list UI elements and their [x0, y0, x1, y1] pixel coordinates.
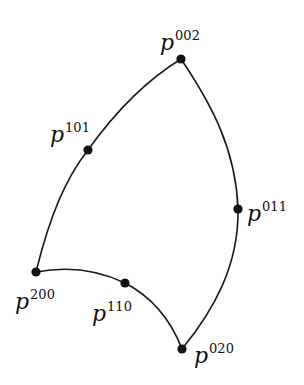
label-p110: p110: [92, 303, 132, 325]
label-base: p: [92, 301, 106, 326]
label-superscript: 110: [107, 299, 132, 314]
label-base: p: [160, 30, 174, 55]
label-base: p: [50, 122, 64, 147]
label-p200: p200: [15, 291, 55, 313]
label-p020: p020: [194, 345, 234, 367]
control-point-p110: [120, 278, 129, 287]
control-point-p101: [83, 145, 92, 154]
edge-p200-p002: [36, 59, 181, 272]
label-base: p: [15, 289, 29, 314]
label-superscript: 020: [209, 341, 234, 356]
edge-p002-p020: [181, 59, 238, 349]
label-p002: p002: [160, 32, 200, 54]
control-point-p200: [31, 267, 40, 276]
label-base: p: [247, 201, 261, 226]
label-superscript: 200: [30, 287, 55, 302]
label-base: p: [194, 343, 208, 368]
label-superscript: 002: [175, 28, 200, 43]
control-point-p011: [233, 204, 242, 213]
control-point-p020: [177, 344, 186, 353]
label-p011: p011: [247, 203, 287, 225]
label-superscript: 011: [262, 199, 287, 214]
patch-diagram: [0, 0, 304, 385]
label-p101: p101: [50, 124, 90, 146]
control-point-p002: [176, 54, 185, 63]
label-superscript: 101: [65, 120, 90, 135]
